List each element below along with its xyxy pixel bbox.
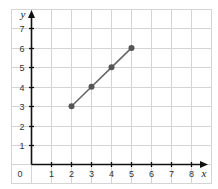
x-tick-label: 6 bbox=[149, 169, 154, 179]
x-tick-label: 8 bbox=[189, 169, 194, 179]
y-tick-label: 4 bbox=[19, 83, 24, 93]
y-tick-label: 2 bbox=[19, 122, 24, 132]
data-point bbox=[109, 64, 115, 70]
grid bbox=[11, 9, 212, 184]
y-tick-label: 3 bbox=[19, 102, 24, 112]
y-axis-label: y bbox=[20, 8, 26, 20]
data-point bbox=[69, 103, 75, 109]
origin-label: 0 bbox=[17, 169, 22, 179]
x-tick-label: 2 bbox=[69, 169, 74, 179]
data-point bbox=[89, 84, 95, 90]
x-tick-label: 3 bbox=[89, 169, 94, 179]
y-tick-label: 7 bbox=[19, 24, 24, 34]
y-tick-label: 5 bbox=[19, 63, 24, 73]
coordinate-graph: 0 1 2 3 4 5 6 7 8 x y 7 6 5 4 3 2 1 bbox=[0, 0, 218, 189]
data-point bbox=[129, 45, 135, 51]
x-tick-label: 5 bbox=[129, 169, 134, 179]
x-tick-label: 4 bbox=[109, 169, 114, 179]
x-axis-label: x bbox=[201, 167, 207, 179]
x-tick-label: 1 bbox=[49, 169, 54, 179]
y-tick-label: 1 bbox=[19, 141, 24, 151]
x-tick-label: 7 bbox=[169, 169, 174, 179]
y-tick-label: 6 bbox=[19, 44, 24, 54]
